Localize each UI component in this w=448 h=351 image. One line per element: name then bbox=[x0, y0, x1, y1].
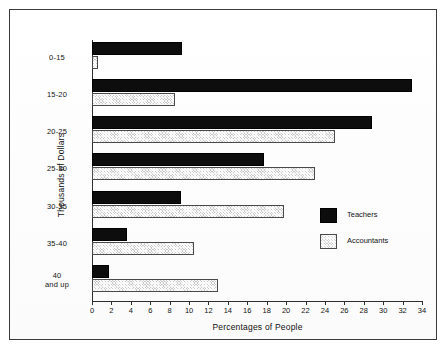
x-tick-mark-12 bbox=[325, 301, 326, 305]
bar-teachers-3 bbox=[92, 153, 264, 166]
x-tick-label-9: 18 bbox=[257, 306, 277, 315]
y-tick-label-6: 40and up bbox=[28, 271, 86, 289]
x-tick-mark-0 bbox=[92, 301, 93, 305]
x-tick-label-15: 30 bbox=[373, 306, 393, 315]
x-tick-mark-10 bbox=[286, 301, 287, 305]
x-tick-label-0: 0 bbox=[82, 306, 102, 315]
y-tick-label-line1: 20-25 bbox=[28, 127, 86, 136]
x-tick-label-12: 24 bbox=[315, 306, 335, 315]
x-tick-mark-15 bbox=[383, 301, 384, 305]
bar-accountants-6 bbox=[92, 279, 218, 292]
x-tick-mark-6 bbox=[208, 301, 209, 305]
bar-accountants-5 bbox=[92, 242, 194, 255]
bar-teachers-4 bbox=[92, 191, 181, 204]
y-tick-label-2: 20-25 bbox=[28, 127, 86, 136]
y-tick-label-line1: 25-30 bbox=[28, 164, 86, 173]
bar-group bbox=[92, 265, 422, 302]
bar-teachers-0 bbox=[92, 42, 182, 55]
bar-teachers-1 bbox=[92, 79, 412, 92]
y-tick-label-line1: 0-15 bbox=[28, 53, 86, 62]
legend-item-teachers[interactable]: Teachers bbox=[320, 206, 440, 232]
bar-group bbox=[92, 42, 422, 79]
y-tick-label-line2: and up bbox=[28, 280, 86, 289]
x-tick-label-2: 4 bbox=[121, 306, 141, 315]
x-tick-mark-8 bbox=[247, 301, 248, 305]
legend-label-teachers: Teachers bbox=[347, 210, 377, 219]
bar-accountants-4 bbox=[92, 205, 284, 218]
x-tick-mark-7 bbox=[228, 301, 229, 305]
y-tick-label-4: 30-35 bbox=[28, 202, 86, 211]
legend-swatch-teachers bbox=[320, 208, 337, 223]
x-tick-label-7: 14 bbox=[218, 306, 238, 315]
bar-teachers-2 bbox=[92, 116, 372, 129]
x-tick-mark-4 bbox=[170, 301, 171, 305]
y-tick-label-1: 15-20 bbox=[28, 90, 86, 99]
legend-label-accountants: Accountants bbox=[347, 236, 388, 245]
bar-accountants-0 bbox=[92, 56, 98, 69]
x-tick-label-11: 22 bbox=[296, 306, 316, 315]
plot-area bbox=[92, 40, 422, 300]
y-tick-label-3: 25-30 bbox=[28, 164, 86, 173]
y-tick-label-line1: 30-35 bbox=[28, 202, 86, 211]
x-tick-mark-13 bbox=[344, 301, 345, 305]
x-tick-mark-5 bbox=[189, 301, 190, 305]
bar-teachers-6 bbox=[92, 265, 109, 278]
bar-teachers-5 bbox=[92, 228, 127, 241]
y-tick-label-0: 0-15 bbox=[28, 53, 86, 62]
x-tick-label-13: 26 bbox=[334, 306, 354, 315]
y-tick-label-line1: 35-40 bbox=[28, 239, 86, 248]
x-tick-label-5: 10 bbox=[179, 306, 199, 315]
y-tick-label-line1: 40 bbox=[28, 271, 86, 280]
y-tick-label-line1: 15-20 bbox=[28, 90, 86, 99]
x-tick-mark-11 bbox=[306, 301, 307, 305]
x-tick-label-6: 12 bbox=[198, 306, 218, 315]
legend-swatch-accountants bbox=[320, 234, 337, 249]
x-tick-mark-9 bbox=[267, 301, 268, 305]
x-tick-mark-16 bbox=[403, 301, 404, 305]
chart-legend: TeachersAccountants bbox=[320, 206, 440, 258]
bar-accountants-2 bbox=[92, 130, 335, 143]
bar-group bbox=[92, 79, 422, 116]
x-axis-ticks: 0246810121416182022242628303234 bbox=[92, 301, 423, 319]
x-tick-mark-2 bbox=[131, 301, 132, 305]
x-tick-label-3: 6 bbox=[140, 306, 160, 315]
x-tick-label-1: 2 bbox=[101, 306, 121, 315]
x-tick-label-8: 16 bbox=[237, 306, 257, 315]
x-tick-label-14: 28 bbox=[354, 306, 374, 315]
legend-item-accountants[interactable]: Accountants bbox=[320, 232, 440, 258]
x-tick-mark-14 bbox=[364, 301, 365, 305]
x-axis-title: Percentages of People bbox=[92, 322, 423, 332]
y-tick-label-5: 35-40 bbox=[28, 239, 86, 248]
x-tick-label-16: 32 bbox=[393, 306, 413, 315]
x-tick-mark-17 bbox=[422, 301, 423, 305]
x-tick-label-17: 34 bbox=[412, 306, 432, 315]
x-tick-mark-1 bbox=[111, 301, 112, 305]
x-tick-mark-3 bbox=[150, 301, 151, 305]
y-axis-tick-labels: 0-1515-2020-2525-3030-3535-4040and up bbox=[24, 40, 86, 301]
bar-group bbox=[92, 116, 422, 153]
bar-accountants-1 bbox=[92, 93, 175, 106]
bar-accountants-3 bbox=[92, 167, 315, 180]
x-tick-label-4: 8 bbox=[160, 306, 180, 315]
figure-frame: Thousands of Dollars 0-1515-2020-2525-30… bbox=[9, 9, 437, 340]
x-tick-label-10: 20 bbox=[276, 306, 296, 315]
bar-group bbox=[92, 153, 422, 190]
